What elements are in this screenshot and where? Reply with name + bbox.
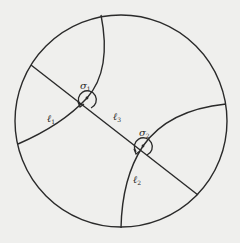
label-sigma1: σ1 (80, 80, 91, 92)
geodesic-arc-l1 (18, 15, 104, 144)
label-l3: ℓ3 (113, 111, 121, 123)
label-l1: ℓ1 (47, 113, 55, 125)
label-sigma2: σ2 (139, 127, 150, 139)
label-l2: ℓ2 (133, 174, 141, 186)
vertex-sigma2 (142, 145, 145, 148)
hyperbolic-disk-diagram: σ1 σ2 ℓ1 ℓ2 ℓ3 (0, 0, 240, 243)
geodesic-diagonal (31, 65, 198, 195)
rotation-arrow-icon (78, 91, 96, 108)
vertex-sigma1 (86, 97, 89, 100)
rotation-marker-sigma1 (78, 91, 96, 108)
geodesic-arc-l2 (121, 104, 226, 228)
